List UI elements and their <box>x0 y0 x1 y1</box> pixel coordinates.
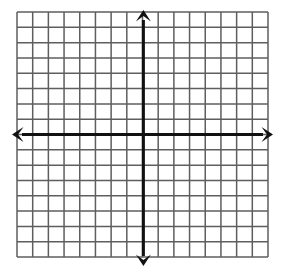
coordinate-plane-svg <box>0 0 283 276</box>
canvas-background <box>0 0 283 276</box>
graph-canvas <box>0 0 283 276</box>
